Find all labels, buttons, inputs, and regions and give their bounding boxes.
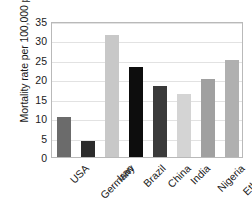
bar	[129, 67, 144, 157]
bar	[201, 79, 216, 157]
bar	[105, 35, 120, 157]
y-tick-label: 5	[26, 134, 47, 144]
bar-slot	[196, 23, 220, 157]
bar	[57, 117, 72, 157]
y-tick-label: 0	[26, 153, 47, 163]
bar	[225, 60, 240, 157]
bar-chart-figure: Mortality rate per 100,000 people 051015…	[0, 0, 252, 217]
bar-slot	[148, 23, 172, 157]
bar-slot	[100, 23, 124, 157]
bars-group	[52, 23, 242, 157]
y-tick-label: 15	[26, 95, 47, 105]
bar-slot	[52, 23, 76, 157]
bar-slot	[172, 23, 196, 157]
x-tick-label: Brazil	[141, 162, 168, 189]
plot-area	[51, 22, 243, 158]
y-tick-label: 10	[26, 114, 47, 124]
bar-slot	[76, 23, 100, 157]
y-tick-label: 30	[26, 36, 47, 46]
bar	[153, 86, 168, 157]
x-tick-label: India	[188, 162, 213, 187]
bar-slot	[220, 23, 244, 157]
bar-slot	[124, 23, 148, 157]
y-axis-tick-labels: 05101520253035	[26, 0, 47, 217]
x-axis-tick-labels: USAGermanyIranBrazilChinaIndiaNigeriaEth…	[51, 158, 243, 217]
bar	[81, 141, 96, 157]
y-tick-label: 20	[26, 75, 47, 85]
y-tick-label: 35	[26, 17, 47, 27]
y-tick-label: 25	[26, 56, 47, 66]
bar	[177, 94, 192, 157]
x-tick-label: USA	[67, 162, 91, 186]
